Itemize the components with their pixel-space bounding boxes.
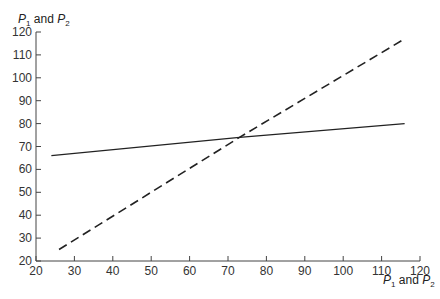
y-tick-label: 20 (19, 254, 33, 268)
x-tick-label: 40 (106, 264, 120, 278)
y-tick-label: 70 (19, 140, 33, 154)
y-tick-label: 80 (19, 117, 33, 131)
x-tick-label: 60 (183, 264, 197, 278)
y-tick-label: 110 (13, 48, 32, 62)
solid-line (51, 124, 404, 156)
y-tick-label: 100 (12, 71, 32, 85)
x-tick-label: 90 (298, 264, 312, 278)
y-axis-label: P1 and P2 (18, 12, 70, 28)
dashed-line (59, 39, 405, 250)
x-axis-label: P1 and P2 (383, 273, 435, 289)
x-tick-label: 70 (221, 264, 235, 278)
x-tick-label: 50 (145, 264, 159, 278)
y-tick-label: 50 (19, 185, 33, 199)
chart-plot: 2030405060708090100110120203040506070809… (0, 0, 440, 299)
x-tick-label: 30 (68, 264, 82, 278)
x-tick-label: 100 (333, 264, 353, 278)
y-tick-label: 60 (19, 162, 33, 176)
y-tick-label: 40 (19, 208, 33, 222)
y-tick-label: 90 (19, 94, 33, 108)
x-tick-label: 80 (260, 264, 274, 278)
y-tick-label: 30 (19, 231, 33, 245)
